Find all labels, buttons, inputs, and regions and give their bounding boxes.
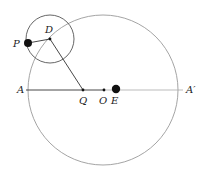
label-q: Q	[79, 95, 87, 106]
segment-dq	[50, 39, 83, 90]
label-a-prime: A′	[185, 84, 196, 95]
point-p	[24, 39, 32, 47]
label-o: O	[99, 95, 107, 106]
label-d: D	[44, 24, 53, 35]
point-o	[103, 89, 106, 92]
label-p: P	[12, 38, 20, 49]
label-a: A	[16, 84, 24, 95]
label-e: E	[110, 95, 119, 106]
geometry-diagram: A A′ Q O E D P	[0, 0, 208, 176]
point-d	[49, 38, 52, 41]
point-e	[112, 85, 120, 93]
point-q	[82, 89, 85, 92]
